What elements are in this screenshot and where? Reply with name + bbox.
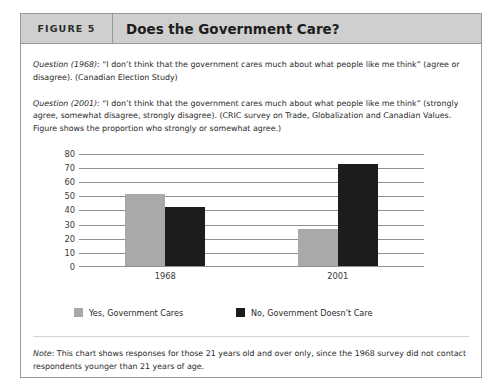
legend-label: Yes, Government Cares xyxy=(89,308,183,318)
gridline xyxy=(79,154,424,155)
x-axis-labels: 19682001 xyxy=(79,271,424,285)
question-1968-text: : “I don’t think that the government car… xyxy=(33,60,460,82)
bar-2001-series1 xyxy=(298,229,338,266)
y-axis-tick-label: 20 xyxy=(35,234,75,244)
question-1968-label: Question (1968) xyxy=(33,60,97,69)
legend-label: No, Government Doesn't Care xyxy=(251,308,372,318)
y-axis-tick-label: 50 xyxy=(35,191,75,201)
chart-legend: Yes, Government CaresNo, Government Does… xyxy=(33,308,469,324)
x-axis-tick-label: 1968 xyxy=(155,271,176,281)
question-2001: Question (2001): “I don’t think that the… xyxy=(33,98,469,136)
figure-header: FIGURE 5 Does the Government Care? xyxy=(21,14,481,44)
bar-2001-series2 xyxy=(338,164,378,266)
bar-1968-series1 xyxy=(125,194,165,266)
figure-note-text: : This chart shows responses for those 2… xyxy=(33,349,466,371)
legend-swatch-icon xyxy=(236,308,245,317)
figure-note-label: Note xyxy=(33,349,52,358)
plot-area: 01020304050607080 xyxy=(79,154,424,267)
question-2001-label: Question (2001) xyxy=(33,99,97,108)
y-axis-tick-label: 40 xyxy=(35,205,75,215)
y-axis-tick-label: 60 xyxy=(35,177,75,187)
legend-swatch-icon xyxy=(74,308,83,317)
y-axis-tick-label: 0 xyxy=(35,262,75,272)
y-axis-tick-label: 80 xyxy=(35,149,75,159)
y-axis-tick-label: 10 xyxy=(35,248,75,258)
legend-item-2: No, Government Doesn't Care xyxy=(236,308,372,318)
question-1968: Question (1968): “I don’t think that the… xyxy=(33,59,469,85)
y-axis-tick-label: 30 xyxy=(35,220,75,230)
legend-item-1: Yes, Government Cares xyxy=(74,308,183,318)
note-divider xyxy=(33,336,469,337)
bar-1968-series2 xyxy=(165,207,205,266)
x-axis-tick-label: 2001 xyxy=(327,271,348,281)
figure-note: Note: This chart shows responses for tho… xyxy=(33,348,469,374)
y-axis-tick-label: 70 xyxy=(35,163,75,173)
figure-container: FIGURE 5 Does the Government Care? Quest… xyxy=(20,13,482,378)
question-2001-text: : “I don’t think that the government car… xyxy=(33,99,458,134)
figure-body: Question (1968): “I don’t think that the… xyxy=(21,59,481,374)
axis-baseline xyxy=(79,266,424,267)
bar-chart: 01020304050607080 19682001 xyxy=(33,150,469,300)
figure-tag: FIGURE 5 xyxy=(21,14,113,43)
figure-title: Does the Government Care? xyxy=(113,14,481,43)
